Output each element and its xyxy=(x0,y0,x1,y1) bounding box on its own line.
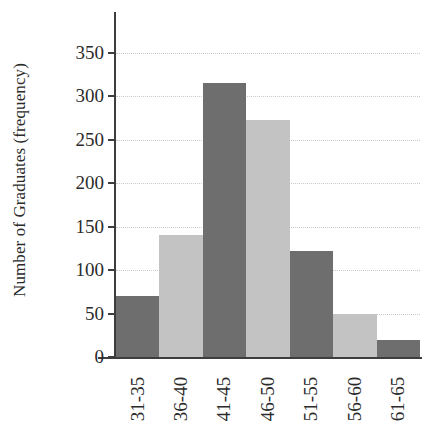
y-tick-label: 50 xyxy=(44,304,104,323)
y-tickmark xyxy=(108,313,116,315)
x-axis-line xyxy=(98,357,422,359)
x-tick-label-text: 31-35 xyxy=(127,377,149,421)
x-tick-label: 61-65 xyxy=(377,360,420,436)
bar-31-35 xyxy=(116,296,159,357)
x-tick-label-text: 51-55 xyxy=(300,377,322,421)
x-tick-label: 31-35 xyxy=(116,360,159,436)
y-tick-labels: 050100150200250300350 xyxy=(38,0,104,400)
bar-56-60 xyxy=(333,314,376,357)
x-tick-labels: 31-3536-4041-4546-5051-5556-6061-65 xyxy=(116,360,420,440)
x-tick-label: 46-50 xyxy=(246,360,289,436)
y-tickmark xyxy=(108,356,116,358)
y-tick-label: 150 xyxy=(44,217,104,236)
y-tickmark xyxy=(108,226,116,228)
histogram-chart: Number of Graduates (frequency) 05010015… xyxy=(0,0,446,440)
x-tick-label: 36-40 xyxy=(159,360,202,436)
bar-51-55 xyxy=(290,251,333,357)
bar-36-40 xyxy=(159,235,202,357)
y-axis-title: Number of Graduates (frequency) xyxy=(0,0,40,360)
bar-46-50 xyxy=(246,120,289,357)
x-tick-label-text: 56-60 xyxy=(344,377,366,421)
x-tick-label: 51-55 xyxy=(290,360,333,436)
bars-layer xyxy=(116,12,420,357)
y-tick-label: 250 xyxy=(44,130,104,149)
x-tick-label-text: 46-50 xyxy=(257,377,279,421)
x-tick-label: 41-45 xyxy=(203,360,246,436)
y-tick-label: 300 xyxy=(44,86,104,105)
y-tickmark xyxy=(108,182,116,184)
bar-61-65 xyxy=(377,340,420,357)
bar-41-45 xyxy=(203,83,246,357)
y-tickmark xyxy=(108,269,116,271)
x-tick-label-text: 36-40 xyxy=(170,377,192,421)
y-tick-label: 0 xyxy=(44,347,104,366)
y-tick-label: 350 xyxy=(44,43,104,62)
x-tick-label-text: 41-45 xyxy=(214,377,236,421)
x-tick-label-text: 61-65 xyxy=(387,377,409,421)
y-tick-label: 200 xyxy=(44,173,104,192)
y-tickmark xyxy=(108,95,116,97)
x-tick-label: 56-60 xyxy=(333,360,376,436)
y-tick-label: 100 xyxy=(44,260,104,279)
y-tickmark xyxy=(108,52,116,54)
y-tickmark xyxy=(108,139,116,141)
y-axis-title-label: Number of Graduates (frequency) xyxy=(10,63,30,297)
